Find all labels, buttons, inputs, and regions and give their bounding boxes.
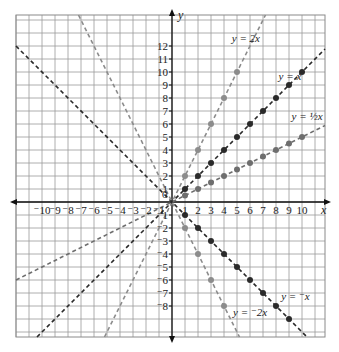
x-tick-label: ⁻2 xyxy=(140,204,151,216)
data-point xyxy=(234,134,240,140)
y-axis-arrow-up-icon xyxy=(169,9,175,16)
data-point xyxy=(208,180,214,186)
x-tick-label: ⁻7 xyxy=(75,204,87,216)
x-tick-label: 7 xyxy=(260,204,266,216)
y-tick-label: 6 xyxy=(163,118,169,130)
y-tick-label: ⁻1 xyxy=(157,209,168,221)
data-point xyxy=(221,95,227,101)
x-tick-label: ⁻10 xyxy=(34,204,51,216)
data-point xyxy=(286,316,292,322)
x-tick-label: 1 xyxy=(182,204,188,216)
x-tick-label: 8 xyxy=(273,204,279,216)
y-tick-label: 9 xyxy=(163,79,169,91)
data-point xyxy=(286,82,292,88)
data-point xyxy=(247,277,253,283)
data-point xyxy=(260,154,266,160)
y-tick-label: ⁻4 xyxy=(157,248,169,260)
data-point xyxy=(195,173,201,179)
data-point xyxy=(221,173,227,179)
x-tick-label: 9 xyxy=(286,204,292,216)
data-point xyxy=(273,147,279,153)
x-tick-label: 3 xyxy=(208,204,214,216)
data-point xyxy=(195,147,201,153)
y-tick-label: ⁻7 xyxy=(157,287,169,299)
y-tick-label: 10 xyxy=(157,66,169,78)
data-point xyxy=(208,238,214,244)
x-axis-arrow-left-icon xyxy=(10,199,17,205)
data-point xyxy=(208,277,214,283)
series-label: y = ⁻x xyxy=(280,290,310,302)
y-tick-label: 12 xyxy=(157,40,168,52)
series-label: y = ⁻2x xyxy=(232,306,267,318)
data-point xyxy=(208,121,214,127)
y-tick-label: ⁻8 xyxy=(157,300,169,312)
data-point xyxy=(221,251,227,257)
data-point xyxy=(195,225,201,231)
y-tick-label: ⁻3 xyxy=(157,235,169,247)
y-tick-label: 11 xyxy=(157,53,168,65)
x-tick-label: ⁻5 xyxy=(101,204,113,216)
data-point xyxy=(286,141,292,147)
coordinate-plane: ⁻10⁻9⁻8⁻7⁻6⁻5⁻4⁻3⁻2⁻11234567891012111098… xyxy=(0,0,339,352)
y-tick-label: 5 xyxy=(163,131,169,143)
data-point xyxy=(234,167,240,173)
data-point xyxy=(182,173,188,179)
data-point xyxy=(299,134,305,140)
x-tick-label: 2 xyxy=(195,204,201,216)
series-label: y = x xyxy=(278,70,302,82)
data-point xyxy=(273,95,279,101)
y-tick-label: ⁻5 xyxy=(157,261,169,273)
y-tick-label: 3 xyxy=(163,157,169,169)
data-point xyxy=(195,251,201,257)
y-tick-label: 7 xyxy=(163,105,169,117)
x-tick-label: 6 xyxy=(247,204,253,216)
x-tick-label: 10 xyxy=(297,204,309,216)
x-tick-label: 5 xyxy=(234,204,240,216)
data-point xyxy=(221,147,227,153)
data-point xyxy=(260,108,266,114)
y-tick-label: ⁻2 xyxy=(157,222,168,234)
y-tick-label: 8 xyxy=(163,92,169,104)
y-tick-label: 2 xyxy=(163,170,169,182)
data-point xyxy=(273,303,279,309)
x-tick-label: ⁻3 xyxy=(127,204,139,216)
data-point xyxy=(221,303,227,309)
origin-label: 0 xyxy=(162,188,168,200)
y-tick-label: 4 xyxy=(163,144,169,156)
data-point xyxy=(260,290,266,296)
data-point xyxy=(195,186,201,192)
data-point xyxy=(247,121,253,127)
data-point xyxy=(234,264,240,270)
y-axis-label: y xyxy=(177,8,184,22)
data-point xyxy=(208,160,214,166)
series-label: y = ½x xyxy=(291,110,323,122)
data-point xyxy=(247,160,253,166)
x-tick-label: 4 xyxy=(221,204,227,216)
tick-labels: ⁻10⁻9⁻8⁻7⁻6⁻5⁻4⁻3⁻2⁻11234567891012111098… xyxy=(34,8,327,312)
x-tick-label: ⁻6 xyxy=(88,204,100,216)
x-tick-label: ⁻4 xyxy=(114,204,126,216)
series-label: y = 2x xyxy=(231,32,260,44)
x-tick-label: ⁻8 xyxy=(62,204,74,216)
x-tick-label: ⁻9 xyxy=(49,204,61,216)
data-point xyxy=(182,193,188,199)
x-axis-label: x xyxy=(320,203,327,217)
data-point xyxy=(182,186,188,192)
y-tick-label: ⁻6 xyxy=(157,274,169,286)
data-point xyxy=(182,225,188,231)
y-axis-arrow-down-icon xyxy=(169,336,175,343)
data-point xyxy=(234,69,240,75)
